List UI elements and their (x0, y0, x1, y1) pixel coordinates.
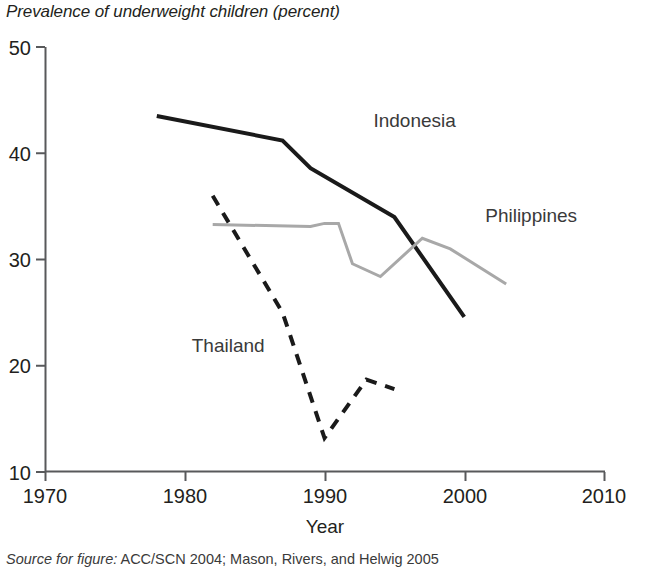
x-tick-label-2010: 2010 (582, 485, 627, 507)
x-tick-label-2000: 2000 (443, 485, 488, 507)
series-line-thailand (213, 196, 395, 438)
series-line-indonesia (157, 116, 464, 317)
series-label-philippines: Philippines (485, 205, 577, 226)
x-tick-label-1970: 1970 (23, 485, 68, 507)
x-tick-label-1990: 1990 (303, 485, 348, 507)
source-note-prefix: Source for figure: (6, 551, 117, 567)
x-tick-label-1980: 1980 (163, 485, 208, 507)
series-line-philippines (213, 223, 506, 284)
y-tick-label-10: 10 (9, 462, 31, 484)
series-label-thailand: Thailand (192, 335, 265, 356)
series-lines (157, 116, 506, 438)
y-axis-ticks (36, 47, 45, 472)
source-note-text: ACC/SCN 2004; Mason, Rivers, and Helwig … (120, 551, 438, 567)
y-tick-label-50: 50 (9, 37, 31, 59)
figure-container: Prevalence of underweight children (perc… (0, 0, 667, 570)
series-label-indonesia: Indonesia (373, 110, 456, 131)
source-note: Source for figure: ACC/SCN 2004; Mason, … (6, 551, 439, 567)
y-tick-label-40: 40 (9, 143, 31, 165)
x-axis-title: Year (306, 516, 345, 537)
y-tick-label-20: 20 (9, 355, 31, 377)
x-axis-ticks (46, 472, 605, 481)
y-tick-label-30: 30 (9, 249, 31, 271)
chart-plot-area: 50 40 30 20 10 1970 1980 1990 2000 2010 … (0, 0, 667, 545)
